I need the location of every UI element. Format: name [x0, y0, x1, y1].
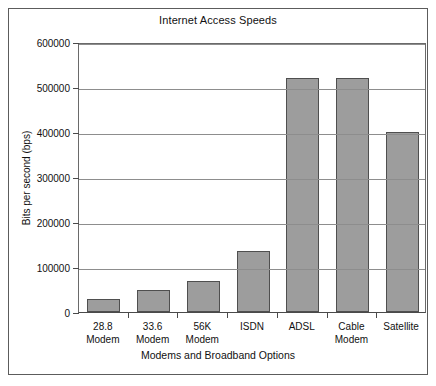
plot-area: [78, 43, 426, 313]
bar: [87, 299, 120, 313]
chart-figure: Internet Access Speeds 01000002000003000…: [0, 0, 436, 386]
gridline: [79, 224, 425, 225]
y-axis-title: Bits per second (bps): [21, 131, 32, 226]
x-tick-label: ISDN: [240, 321, 264, 334]
x-tick-mark: [227, 313, 228, 318]
x-tick-label-line: Modem: [186, 334, 219, 347]
x-tick-mark: [327, 313, 328, 318]
x-tick-label-line: ADSL: [289, 321, 315, 334]
x-tick-label-line: Modem: [136, 334, 169, 347]
y-tick-label: 400000: [0, 128, 70, 139]
x-tick-label: CableModem: [335, 321, 368, 346]
y-tick-label: 300000: [0, 173, 70, 184]
gridline: [79, 89, 425, 90]
y-tick-label: 200000: [0, 218, 70, 229]
y-tick-label: 600000: [0, 38, 70, 49]
y-tick-mark: [73, 268, 79, 269]
bars-layer: [79, 44, 425, 312]
y-tick-label: 500000: [0, 83, 70, 94]
x-tick-label-line: Cable: [335, 321, 368, 334]
y-tick-mark: [73, 178, 79, 179]
bar: [386, 132, 419, 312]
gridline: [79, 134, 425, 135]
y-tick-mark: [73, 223, 79, 224]
bar: [237, 251, 270, 312]
x-tick-label-line: 33.6: [136, 321, 169, 334]
x-tick-label-line: Satellite: [383, 321, 419, 334]
gridline: [79, 44, 425, 45]
x-tick-label: 56KModem: [186, 321, 219, 346]
bar: [137, 290, 170, 313]
bar: [286, 78, 319, 312]
y-tick-mark: [73, 88, 79, 89]
y-tick-mark: [73, 43, 79, 44]
x-tick-label: ADSL: [289, 321, 315, 334]
gridline: [79, 269, 425, 270]
x-tick-label: 33.6Modem: [136, 321, 169, 346]
bar: [336, 78, 369, 312]
x-tick-mark: [277, 313, 278, 318]
x-axis-title: Modems and Broadband Options: [0, 349, 436, 361]
x-tick-mark: [128, 313, 129, 318]
gridline: [79, 179, 425, 180]
bar: [187, 281, 220, 313]
y-tick-mark: [73, 313, 79, 314]
chart-title: Internet Access Speeds: [0, 14, 436, 26]
x-tick-mark: [177, 313, 178, 318]
y-tick-label: 0: [0, 308, 70, 319]
y-tick-label: 100000: [0, 263, 70, 274]
x-tick-label: 28.8Modem: [86, 321, 119, 346]
x-tick-label-line: Modem: [335, 334, 368, 347]
x-tick-label-line: Modem: [86, 334, 119, 347]
x-tick-label-line: ISDN: [240, 321, 264, 334]
x-tick-label-line: 28.8: [86, 321, 119, 334]
x-tick-label: Satellite: [383, 321, 419, 334]
x-tick-label-line: 56K: [186, 321, 219, 334]
y-tick-mark: [73, 133, 79, 134]
x-tick-mark: [376, 313, 377, 318]
